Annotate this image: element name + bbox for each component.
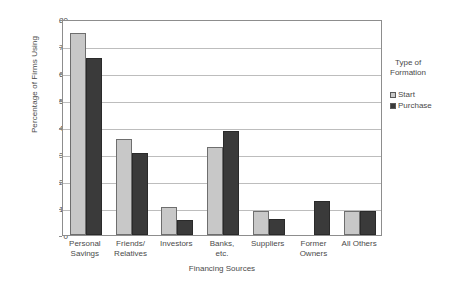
bar-group [68,21,104,235]
bar [314,201,330,235]
legend-item: Start [390,90,452,100]
bar-group [205,21,241,235]
legend-swatch-icon [390,103,396,109]
bar [223,131,239,235]
bars-layer [63,21,381,235]
legend-swatch-icon [390,92,396,98]
bar [207,147,223,235]
x-axis-tick-label-line: Owners [277,249,349,259]
bar [70,33,86,236]
legend-item: Purchase [390,101,452,111]
x-axis-tick-label-line: etc. [186,249,258,259]
legend-title-line-1: Type of [390,58,452,68]
bar-group [342,21,378,235]
legend-title-line-2: Formation [390,68,452,78]
bar-chart: Percentage of Firms Using 01020304050607… [0,0,452,285]
bar [177,220,193,235]
bar [269,219,285,235]
legend-title: Type of Formation [390,58,452,78]
x-axis-title: Financing Sources [62,264,382,273]
y-axis-title: Percentage of Firms Using [30,5,39,165]
bar-group [114,21,150,235]
legend-item-label: Purchase [398,101,432,111]
plot-area [62,20,382,236]
x-axis-tick-label-line: Relatives [95,249,167,259]
y-axis-tick-mark [59,236,62,237]
bar [360,211,376,235]
x-axis-tick-label-line: All Others [323,239,395,249]
bar-group [296,21,332,235]
bar [161,207,177,235]
legend-item-label: Start [398,90,415,100]
legend: Type of Formation StartPurchase [390,58,452,112]
bar-group [251,21,287,235]
bar [116,139,132,235]
bar [253,211,269,235]
legend-items: StartPurchase [390,90,452,111]
bar-group [159,21,195,235]
bar [86,58,102,235]
x-axis-tick-label: All Others [323,239,395,249]
bar [132,153,148,235]
bar [344,211,360,235]
